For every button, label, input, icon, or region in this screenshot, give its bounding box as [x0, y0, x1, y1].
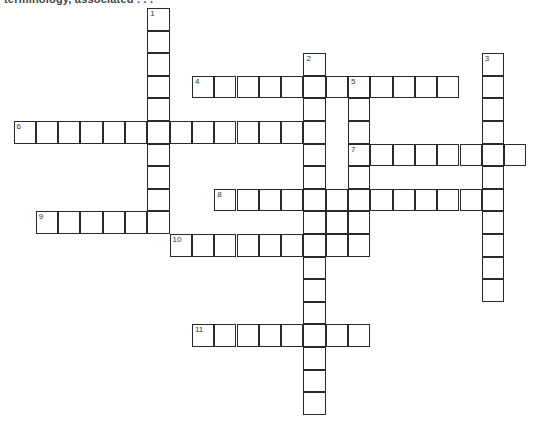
crossword-cell[interactable]: 3	[482, 53, 504, 76]
crossword-cell[interactable]	[326, 324, 348, 347]
crossword-cell[interactable]	[504, 144, 526, 167]
crossword-cell[interactable]	[147, 98, 169, 121]
crossword-cell[interactable]	[237, 121, 259, 144]
crossword-cell[interactable]	[482, 211, 504, 234]
crossword-cell[interactable]	[348, 166, 370, 189]
crossword-cell[interactable]	[482, 144, 504, 167]
crossword-cell[interactable]	[393, 144, 415, 167]
crossword-cell[interactable]	[348, 121, 370, 144]
crossword-cell[interactable]	[80, 211, 102, 234]
crossword-cell[interactable]	[460, 189, 482, 212]
crossword-cell[interactable]	[393, 189, 415, 212]
crossword-cell[interactable]	[58, 211, 80, 234]
crossword-cell[interactable]	[370, 76, 392, 99]
crossword-cell[interactable]: 7	[348, 144, 370, 167]
crossword-cell[interactable]	[192, 121, 214, 144]
crossword-cell[interactable]	[437, 144, 459, 167]
crossword-cell[interactable]	[147, 189, 169, 212]
crossword-cell[interactable]	[348, 211, 370, 234]
crossword-cell[interactable]	[482, 166, 504, 189]
crossword-cell[interactable]	[348, 324, 370, 347]
crossword-cell[interactable]	[259, 121, 281, 144]
crossword-cell[interactable]	[281, 76, 303, 99]
crossword-cell[interactable]	[326, 234, 348, 257]
crossword-cell[interactable]	[214, 234, 236, 257]
crossword-cell[interactable]	[103, 121, 125, 144]
crossword-cell[interactable]	[147, 121, 169, 144]
crossword-cell[interactable]	[303, 392, 325, 415]
crossword-cell[interactable]	[303, 302, 325, 325]
crossword-cell[interactable]	[192, 234, 214, 257]
crossword-cell[interactable]	[281, 324, 303, 347]
crossword-cell[interactable]	[482, 189, 504, 212]
crossword-cell[interactable]	[170, 121, 192, 144]
crossword-cell[interactable]	[415, 144, 437, 167]
crossword-cell[interactable]: 11	[192, 324, 214, 347]
crossword-cell[interactable]	[326, 211, 348, 234]
crossword-cell[interactable]	[36, 121, 58, 144]
crossword-cell[interactable]: 1	[147, 8, 169, 31]
crossword-cell[interactable]: 4	[192, 76, 214, 99]
crossword-cell[interactable]: 5	[348, 76, 370, 99]
crossword-cell[interactable]	[370, 189, 392, 212]
crossword-cell[interactable]	[214, 324, 236, 347]
crossword-cell[interactable]	[303, 211, 325, 234]
crossword-cell[interactable]	[348, 234, 370, 257]
crossword-cell[interactable]	[147, 144, 169, 167]
crossword-cell[interactable]	[415, 189, 437, 212]
crossword-cell[interactable]	[259, 76, 281, 99]
crossword-cell[interactable]	[281, 189, 303, 212]
crossword-cell[interactable]	[482, 98, 504, 121]
crossword-cell[interactable]	[437, 189, 459, 212]
crossword-cell[interactable]	[237, 234, 259, 257]
crossword-cell[interactable]: 8	[214, 189, 236, 212]
crossword-cell[interactable]	[303, 279, 325, 302]
crossword-cell[interactable]	[482, 121, 504, 144]
crossword-cell[interactable]	[103, 211, 125, 234]
crossword-cell[interactable]	[147, 31, 169, 54]
crossword-cell[interactable]	[303, 234, 325, 257]
crossword-cell[interactable]	[147, 211, 169, 234]
crossword-cell[interactable]	[326, 76, 348, 99]
crossword-cell[interactable]: 10	[170, 234, 192, 257]
crossword-cell[interactable]	[237, 324, 259, 347]
crossword-cell[interactable]	[259, 234, 281, 257]
crossword-cell[interactable]	[393, 76, 415, 99]
crossword-cell[interactable]	[214, 76, 236, 99]
crossword-cell[interactable]	[303, 324, 325, 347]
crossword-cell[interactable]	[482, 234, 504, 257]
crossword-cell[interactable]	[303, 347, 325, 370]
crossword-cell[interactable]	[303, 370, 325, 393]
crossword-cell[interactable]	[125, 121, 147, 144]
crossword-cell[interactable]	[482, 257, 504, 280]
crossword-cell[interactable]: 9	[36, 211, 58, 234]
crossword-cell[interactable]	[281, 121, 303, 144]
crossword-cell[interactable]: 2	[303, 53, 325, 76]
crossword-cell[interactable]	[125, 211, 147, 234]
crossword-cell[interactable]	[348, 98, 370, 121]
crossword-cell[interactable]	[58, 121, 80, 144]
crossword-cell[interactable]	[80, 121, 102, 144]
crossword-cell[interactable]	[259, 324, 281, 347]
crossword-cell[interactable]	[303, 189, 325, 212]
crossword-cell[interactable]	[303, 76, 325, 99]
crossword-cell[interactable]	[303, 144, 325, 167]
crossword-cell[interactable]	[147, 76, 169, 99]
crossword-cell[interactable]	[303, 166, 325, 189]
crossword-cell[interactable]	[214, 121, 236, 144]
crossword-cell[interactable]	[326, 189, 348, 212]
crossword-cell[interactable]	[437, 76, 459, 99]
crossword-cell[interactable]	[259, 189, 281, 212]
crossword-cell[interactable]	[482, 279, 504, 302]
crossword-cell[interactable]	[147, 166, 169, 189]
crossword-cell[interactable]	[281, 234, 303, 257]
crossword-cell[interactable]	[303, 257, 325, 280]
crossword-cell[interactable]	[370, 144, 392, 167]
crossword-cell[interactable]: 6	[14, 121, 36, 144]
crossword-cell[interactable]	[303, 98, 325, 121]
crossword-cell[interactable]	[237, 76, 259, 99]
crossword-cell[interactable]	[237, 189, 259, 212]
crossword-cell[interactable]	[482, 76, 504, 99]
crossword-cell[interactable]	[303, 121, 325, 144]
crossword-cell[interactable]	[415, 76, 437, 99]
